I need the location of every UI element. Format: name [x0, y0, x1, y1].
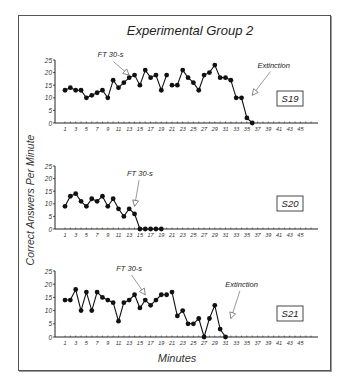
- data-point: [164, 73, 169, 78]
- data-point: [84, 204, 89, 209]
- y-tick-label: 10: [45, 307, 53, 314]
- y-axis-label: Correct Answers Per Minute: [24, 134, 36, 265]
- data-point: [234, 95, 239, 100]
- x-tick-label: 27: [200, 232, 208, 238]
- arrowhead-icon: [139, 288, 145, 295]
- x-tick-label: 21: [168, 232, 175, 238]
- y-tick-label: 15: [45, 294, 53, 301]
- x-tick-label: 37: [255, 126, 262, 132]
- data-point: [127, 75, 132, 80]
- y-tick-label: 20: [44, 281, 53, 288]
- data-point: [121, 300, 126, 305]
- panels-group: 0510152025135791113151719212325272931333…: [44, 50, 318, 346]
- x-tick-label: 17: [148, 232, 155, 238]
- data-point: [89, 308, 94, 313]
- arrowhead-icon: [123, 69, 130, 75]
- x-tick-label: 21: [168, 340, 175, 346]
- data-point: [154, 227, 159, 232]
- panel-s21: 0510152025135791113151719212325272931333…: [44, 264, 318, 346]
- x-tick-label: 39: [265, 340, 271, 346]
- x-tick-label: 11: [116, 232, 122, 238]
- data-point: [186, 75, 191, 80]
- data-point: [170, 290, 175, 295]
- y-tick-label: 20: [44, 175, 53, 182]
- x-tick-label: 33: [233, 232, 240, 238]
- x-tick-label: 13: [126, 232, 133, 238]
- x-tick-label: 11: [116, 340, 122, 346]
- x-tick-label: 45: [297, 126, 304, 132]
- y-tick-label: 0: [48, 226, 52, 233]
- x-tick-label: 19: [158, 126, 164, 132]
- x-tick-label: 19: [158, 232, 164, 238]
- data-point: [100, 295, 105, 300]
- arrowhead-icon: [230, 312, 236, 319]
- x-tick-label: 15: [137, 126, 144, 132]
- data-point: [191, 80, 196, 85]
- data-point: [116, 206, 121, 211]
- y-tick-label: 15: [45, 82, 53, 89]
- x-tick-label: 43: [287, 340, 294, 346]
- y-tick-label: 5: [48, 107, 52, 114]
- x-tick-label: 45: [297, 340, 304, 346]
- data-point: [89, 196, 94, 201]
- data-line: [65, 70, 167, 98]
- data-point: [84, 95, 89, 100]
- x-tick-label: 37: [255, 232, 262, 238]
- data-point: [143, 68, 148, 73]
- y-tick-label: 5: [48, 320, 52, 327]
- data-point: [63, 88, 68, 93]
- x-tick-label: 9: [106, 126, 109, 132]
- data-point: [68, 194, 73, 199]
- data-point: [116, 85, 121, 90]
- x-axis-label: Minutes: [158, 352, 197, 364]
- data-line: [172, 292, 226, 337]
- y-tick-label: 0: [48, 120, 52, 127]
- annotation-label: FT 30-s: [127, 169, 153, 178]
- data-point: [100, 194, 105, 199]
- data-point: [218, 75, 223, 80]
- x-tick-label: 25: [189, 232, 197, 238]
- x-tick-label: 37: [255, 340, 262, 346]
- x-tick-label: 21: [168, 126, 175, 132]
- x-tick-label: 7: [96, 232, 100, 238]
- x-tick-label: 17: [148, 126, 155, 132]
- x-tick-label: 35: [244, 340, 251, 346]
- data-point: [79, 308, 84, 313]
- x-tick-label: 39: [265, 126, 271, 132]
- data-point: [196, 88, 201, 93]
- data-point: [159, 292, 164, 297]
- data-point: [95, 90, 100, 95]
- data-point: [170, 83, 175, 88]
- x-tick-label: 41: [276, 340, 282, 346]
- data-point: [180, 308, 185, 313]
- x-tick-label: 27: [200, 126, 208, 132]
- y-tick-label: 20: [44, 69, 53, 76]
- y-tick-label: 0: [48, 334, 52, 341]
- y-tick-label: 25: [44, 57, 53, 64]
- data-point: [63, 298, 68, 303]
- x-tick-label: 35: [244, 232, 251, 238]
- data-point: [95, 290, 100, 295]
- x-tick-label: 25: [189, 126, 197, 132]
- data-point: [132, 211, 137, 216]
- x-tick-label: 29: [211, 126, 218, 132]
- data-point: [154, 73, 159, 78]
- data-point: [223, 335, 228, 340]
- data-point: [132, 292, 137, 297]
- annotation-label: FT 30-s: [116, 264, 142, 273]
- x-tick-label: 41: [276, 126, 282, 132]
- x-tick-label: 5: [85, 340, 89, 346]
- data-point: [111, 300, 116, 305]
- x-tick-label: 23: [179, 340, 187, 346]
- data-point: [202, 73, 207, 78]
- data-point: [111, 196, 116, 201]
- x-tick-label: 3: [74, 126, 78, 132]
- subject-label: S21: [282, 308, 299, 319]
- x-tick-label: 9: [106, 340, 109, 346]
- x-tick-label: 33: [233, 126, 240, 132]
- data-point: [89, 93, 94, 98]
- chart-title: Experimental Group 2: [127, 23, 254, 38]
- subject-label: S20: [282, 198, 300, 209]
- y-tick-label: 25: [44, 268, 53, 275]
- x-tick-label: 17: [148, 340, 155, 346]
